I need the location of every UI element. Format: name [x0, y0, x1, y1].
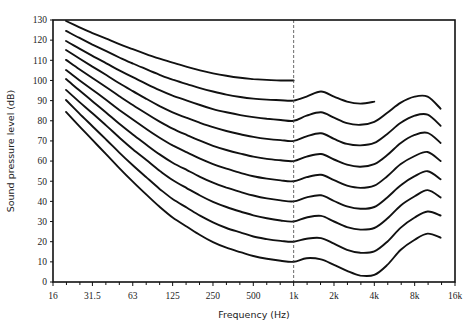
x-tick-label: 4k	[370, 291, 380, 301]
y-tick-label: 60	[38, 156, 48, 166]
x-axis: 1631.5631252505001k2k4k8k16k	[48, 282, 462, 301]
y-tick-label: 80	[38, 116, 48, 126]
x-tick-label: 125	[166, 291, 181, 301]
y-tick-label: 0	[42, 277, 47, 287]
x-axis-title: Frequency (Hz)	[218, 309, 290, 320]
curves-group	[66, 21, 441, 276]
equal-loudness-chart: 0102030405060708090100110120130 1631.563…	[0, 0, 476, 333]
y-tick-label: 20	[38, 237, 48, 247]
y-axis-title: Sound pressure level (dB)	[5, 90, 16, 213]
x-tick-label: 500	[246, 291, 261, 301]
y-axis: 0102030405060708090100110120130	[33, 15, 53, 287]
x-tick-label: 63	[128, 291, 138, 301]
y-tick-label: 40	[38, 197, 48, 207]
x-tick-label: 2k	[329, 291, 339, 301]
x-tick-label: 31.5	[84, 291, 101, 301]
y-tick-label: 50	[38, 177, 48, 187]
x-tick-label: 16	[48, 291, 58, 301]
y-tick-label: 100	[33, 76, 48, 86]
y-tick-label: 90	[38, 96, 48, 106]
y-tick-label: 10	[38, 257, 48, 267]
x-tick-label: 250	[206, 291, 221, 301]
y-tick-label: 110	[33, 56, 47, 66]
y-tick-label: 120	[33, 35, 48, 45]
y-tick-label: 30	[38, 217, 48, 227]
x-tick-label: 1k	[289, 291, 299, 301]
y-tick-label: 130	[33, 15, 48, 25]
y-tick-label: 70	[38, 136, 48, 146]
plot-frame	[53, 20, 455, 282]
x-tick-label: 16k	[448, 291, 463, 301]
curve-60-phon	[66, 60, 441, 167]
x-tick-label: 8k	[410, 291, 420, 301]
